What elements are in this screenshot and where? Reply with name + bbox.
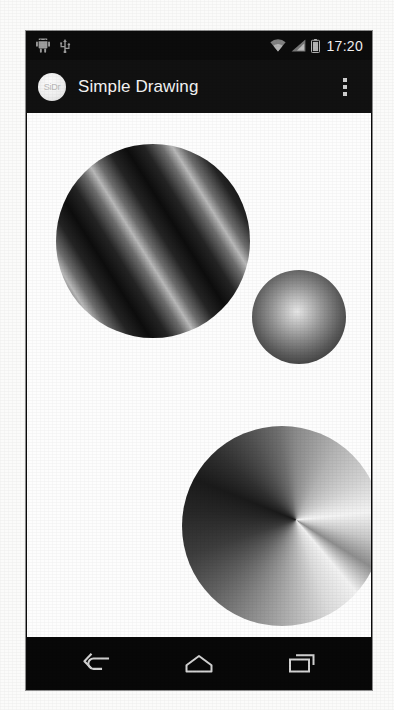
android-device-screen: 17:20 SiDr Simple Drawing (26, 31, 372, 690)
drawing-canvas[interactable] (27, 113, 371, 637)
app-icon-label: SiDr (44, 82, 61, 92)
overflow-menu-icon[interactable] (332, 67, 358, 107)
overflow-dot (343, 85, 347, 89)
status-bar: 17:20 (26, 31, 372, 60)
recents-icon (288, 653, 316, 675)
back-button[interactable] (65, 642, 127, 686)
recents-button[interactable] (271, 642, 333, 686)
navigation-bar (27, 638, 371, 689)
status-bar-right-icons: 17:20 (270, 38, 366, 54)
overflow-dot (343, 92, 347, 96)
home-button[interactable] (168, 642, 230, 686)
home-icon (185, 654, 213, 674)
status-bar-clock: 17:20 (325, 38, 363, 54)
circle-linear-gradient (56, 144, 250, 338)
status-bar-left-icons (32, 38, 71, 53)
battery-icon (311, 39, 320, 53)
scanned-page-background: 17:20 SiDr Simple Drawing (0, 0, 394, 710)
circle-sweep-gradient (182, 426, 371, 626)
wifi-icon (270, 39, 286, 52)
overflow-dot (343, 78, 347, 82)
app-title: Simple Drawing (78, 77, 198, 97)
action-bar: SiDr Simple Drawing (26, 60, 372, 113)
android-robot-icon (36, 38, 50, 53)
circle-radial-gradient (252, 270, 346, 364)
app-icon: SiDr (38, 73, 66, 101)
signal-icon (291, 39, 306, 52)
back-arrow-icon (81, 653, 111, 675)
usb-icon (59, 38, 71, 53)
